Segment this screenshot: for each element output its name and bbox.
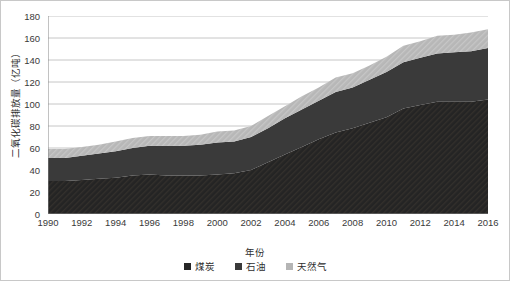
x-tick-label-2002: 2002 [240,217,261,228]
x-tick-label-2000: 2000 [207,217,228,228]
legend-label: 天然气 [297,259,327,273]
y-tick-label-100: 100 [2,99,40,110]
x-tick-label-1996: 1996 [139,217,160,228]
chart-legend: 煤炭石油天然气 [1,259,509,273]
legend-item-0[interactable]: 煤炭 [184,259,215,273]
legend-swatch-icon [286,263,293,270]
x-tick-label-2016: 2016 [477,217,498,228]
x-axis-title: 年份 [1,245,509,259]
x-tick-label-2006: 2006 [308,217,329,228]
y-tick-label-40: 40 [2,165,40,176]
legend-item-1[interactable]: 石油 [235,259,266,273]
x-tick-label-1992: 1992 [71,217,92,228]
chart-canvas [48,16,488,214]
plot-area [48,16,488,214]
x-tick-label-2004: 2004 [274,217,295,228]
legend-swatch-icon [235,263,242,270]
y-axis-tick-labels: 020406080100120140160180 [1,1,44,281]
legend-swatch-icon [184,263,191,270]
x-tick-label-2010: 2010 [376,217,397,228]
y-tick-label-180: 180 [2,11,40,22]
co2-emissions-stacked-area-chart: 二氧化碳排放量（亿吨） 020406080100120140160180 199… [0,0,510,281]
y-tick-label-120: 120 [2,77,40,88]
y-tick-label-160: 160 [2,33,40,44]
y-tick-label-0: 0 [2,209,40,220]
y-tick-label-20: 20 [2,187,40,198]
x-tick-label-1990: 1990 [37,217,58,228]
y-tick-label-60: 60 [2,143,40,154]
legend-label: 煤炭 [195,259,215,273]
y-tick-label-140: 140 [2,55,40,66]
x-tick-label-2012: 2012 [410,217,431,228]
x-tick-label-1994: 1994 [105,217,126,228]
series-areas [48,29,488,214]
x-tick-label-2014: 2014 [444,217,465,228]
x-axis-tick-labels: 1990199219941996199820002002200420062008… [48,217,488,233]
legend-label: 石油 [246,259,266,273]
x-tick-label-2008: 2008 [342,217,363,228]
y-tick-label-80: 80 [2,121,40,132]
legend-item-2[interactable]: 天然气 [286,259,327,273]
x-tick-label-1998: 1998 [173,217,194,228]
